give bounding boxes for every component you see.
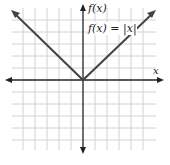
y-axis-down-arrow-icon (80, 147, 86, 154)
graph-canvas (0, 0, 170, 165)
x-axis-label: x (153, 65, 159, 76)
y-axis-up-arrow-icon (80, 4, 86, 11)
x-axis-left-arrow-icon (5, 77, 12, 83)
x-axis-right-arrow-icon (157, 77, 164, 83)
y-axis-label: f(x) (88, 2, 107, 15)
function-label: f(x) = |x| (88, 22, 137, 35)
